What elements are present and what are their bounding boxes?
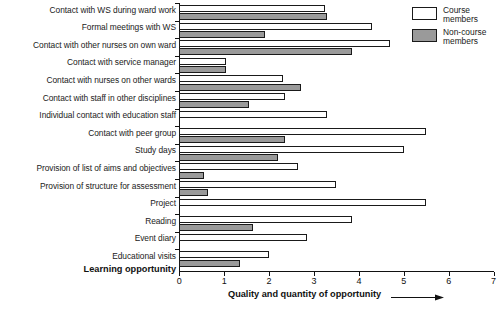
bar-non-course-members xyxy=(179,189,208,196)
category-label: Event diary xyxy=(0,234,176,243)
bar-course-members xyxy=(179,58,225,65)
bar-course-members xyxy=(179,75,282,82)
category-tick xyxy=(175,179,179,180)
legend-label-course-members: Course members xyxy=(443,6,478,24)
x-tick-label-2: 2 xyxy=(267,276,272,286)
noncourse-swatch-icon xyxy=(412,29,437,42)
x-axis-line xyxy=(179,271,494,272)
legend-label-line2: members xyxy=(443,36,478,46)
bar-non-course-members xyxy=(179,48,352,55)
category-label: Reading xyxy=(0,217,176,226)
category-tick xyxy=(175,232,179,233)
bar-chart: Contact with WS during ward workFormal m… xyxy=(0,0,501,310)
category-label: Contact with WS during ward work xyxy=(0,6,176,15)
category-tick xyxy=(175,126,179,127)
x-tick-label-4: 4 xyxy=(356,276,361,286)
category-label: Contact with service manager xyxy=(0,58,176,67)
category-tick xyxy=(175,21,179,22)
x-tick-label-0: 0 xyxy=(177,276,182,286)
bar-course-members xyxy=(179,251,269,258)
bar-non-course-members xyxy=(179,154,278,161)
category-label: Individual contact with education staff xyxy=(0,111,176,120)
x-axis-arrow-icon xyxy=(391,294,446,301)
legend-label-line2: members xyxy=(443,14,478,24)
bar-course-members xyxy=(179,93,285,100)
bar-non-course-members xyxy=(179,136,285,143)
bar-non-course-members xyxy=(179,101,249,108)
category-tick xyxy=(175,197,179,198)
category-label: Contact with other nurses on own ward xyxy=(0,41,176,50)
legend-item-course-members: Course members xyxy=(412,6,478,24)
category-label: Study days xyxy=(0,146,176,155)
bar-course-members xyxy=(179,181,336,188)
x-tick-label-6: 6 xyxy=(446,276,451,286)
category-tick xyxy=(175,38,179,39)
category-label: Educational visits xyxy=(0,252,176,261)
bar-non-course-members xyxy=(179,31,264,38)
category-label: Contact with peer group xyxy=(0,129,176,138)
bar-course-members xyxy=(179,40,390,47)
x-axis-title: Quality and quantity of opportunity xyxy=(228,289,381,300)
category-label: Provision of list of aims and objectives xyxy=(0,164,176,173)
category-tick xyxy=(175,56,179,57)
bar-non-course-members xyxy=(179,260,240,267)
category-label: Provision of structure for assessment xyxy=(0,182,176,191)
category-tick xyxy=(175,73,179,74)
bar-course-members xyxy=(179,5,325,12)
bar-course-members xyxy=(179,234,307,241)
category-tick xyxy=(175,109,179,110)
bar-course-members xyxy=(179,146,404,153)
category-tick xyxy=(175,144,179,145)
x-tick-label-7: 7 xyxy=(491,276,496,286)
category-tick xyxy=(175,249,179,250)
bar-course-members xyxy=(179,216,352,223)
category-label: Project xyxy=(0,199,176,208)
x-tick-label-5: 5 xyxy=(401,276,406,286)
legend-item-non-course-members: Non-course members xyxy=(412,28,486,46)
bar-non-course-members xyxy=(179,224,253,231)
x-tick-label-1: 1 xyxy=(222,276,227,286)
bar-course-members xyxy=(179,128,426,135)
category-tick xyxy=(175,3,179,4)
legend-label-non-course-members: Non-course members xyxy=(443,28,486,46)
category-tick xyxy=(175,214,179,215)
bar-non-course-members xyxy=(179,172,204,179)
x-tick-label-3: 3 xyxy=(311,276,316,286)
course-swatch-icon xyxy=(412,7,437,20)
bar-course-members xyxy=(179,199,426,206)
category-tick xyxy=(175,91,179,92)
category-label: Formal meetings with WS xyxy=(0,23,176,32)
bar-non-course-members xyxy=(179,66,225,73)
bar-course-members xyxy=(179,111,327,118)
category-label: Contact with nurses on other wards xyxy=(0,76,176,85)
bar-non-course-members xyxy=(179,13,327,20)
bar-non-course-members xyxy=(179,84,300,91)
category-tick xyxy=(175,161,179,162)
category-label: Contact with staff in other disciplines xyxy=(0,94,176,103)
bar-course-members xyxy=(179,23,372,30)
y-axis-title: Learning opportunity xyxy=(36,264,176,275)
bar-course-members xyxy=(179,163,298,170)
